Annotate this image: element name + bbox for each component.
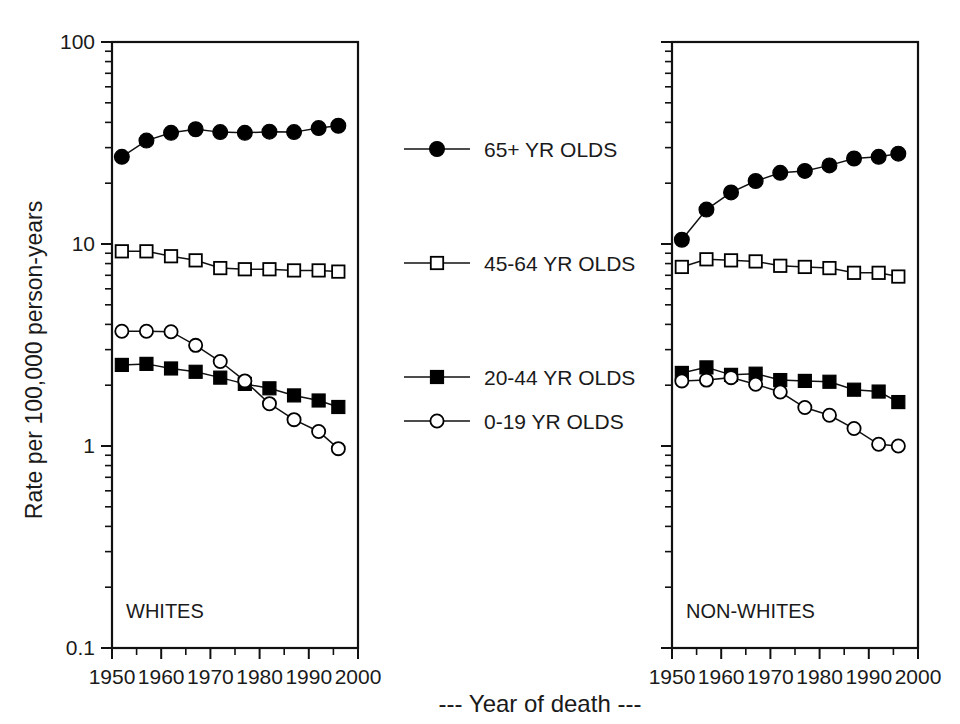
series-line [122,364,338,407]
panel-non-whites: 195019601970198019902000NON-WHITES [649,42,942,688]
panel-label: NON-WHITES [686,600,815,622]
data-point-filled-circle-marker [748,174,763,189]
data-point-open-circle-marker [115,325,128,338]
mortality-rate-chart: 1001010.1195019601970198019902000WHITES1… [0,0,960,724]
data-point-filled-circle-marker [773,165,788,180]
panel-whites: 1001010.1195019601970198019902000WHITES [60,30,381,688]
x-tick-label: 1970 [747,665,794,688]
data-point-open-circle-marker [892,439,905,452]
data-point-open-square-marker [214,262,226,274]
data-point-open-square-marker [774,260,786,272]
legend-label: 20-44 YR OLDS [484,366,635,389]
data-point-filled-square-marker [288,389,301,402]
legend-item-0-19-yr-olds: 0-19 YR OLDS [404,410,624,433]
data-point-filled-circle-marker [188,122,203,137]
legend-label: 0-19 YR OLDS [484,410,624,433]
data-point-filled-circle-marker [139,133,154,148]
x-tick-label: 1990 [845,665,892,688]
series-line [682,259,898,276]
x-tick-label: 1950 [649,665,696,688]
data-point-filled-circle-marker [724,185,739,200]
data-point-filled-circle-marker [797,164,812,179]
series-0-19-yr-olds [675,371,905,453]
data-point-filled-square-marker [892,396,905,409]
series-45-64-yr-olds [116,245,345,278]
chart-root: 1001010.1195019601970198019902000WHITES1… [21,30,941,717]
data-point-open-circle-marker [774,385,787,398]
data-point-filled-square-marker [312,394,325,407]
data-point-open-circle-marker [164,325,177,338]
data-point-filled-square-marker [214,371,227,384]
data-point-filled-circle-marker [164,125,179,140]
data-point-filled-circle-marker [237,125,252,140]
data-point-open-circle-marker [823,409,836,422]
series-65-yr-olds [114,118,345,164]
data-point-open-square-marker [332,265,344,277]
data-point-filled-circle-marker [114,149,129,164]
data-point-filled-square-marker [700,361,713,374]
legend: 65+ YR OLDS45-64 YR OLDS20-44 YR OLDS0-1… [404,138,635,433]
legend-item-65-yr-olds: 65+ YR OLDS [404,138,617,161]
data-point-open-circle-marker [675,374,688,387]
data-point-open-square-marker [848,267,860,279]
data-point-open-square-marker [239,263,251,275]
data-point-open-circle-marker [287,413,300,426]
data-point-filled-circle-marker [213,125,228,140]
data-point-open-circle-marker [798,401,811,414]
data-point-open-square-marker [749,255,761,267]
x-tick-label: 1980 [236,665,283,688]
legend-marker-filled-circle-marker [430,142,445,157]
data-point-filled-circle-marker [674,232,689,247]
panel-label: WHITES [126,600,204,622]
series-line [682,378,898,446]
data-point-open-square-marker [312,264,324,276]
y-axis-title: Rate per 100,000 person-years [21,201,47,519]
x-axis-caption: --- Year of death --- [439,690,642,717]
plot-frame [672,42,918,648]
data-point-filled-square-marker [263,382,276,395]
data-point-open-square-marker [700,253,712,265]
data-point-open-square-marker [725,254,737,266]
data-point-filled-square-marker [115,358,128,371]
data-point-open-circle-marker [140,325,153,338]
legend-marker-open-circle-marker [430,414,443,427]
data-point-open-square-marker [189,254,201,266]
data-point-filled-square-marker [848,383,861,396]
data-point-filled-circle-marker [262,124,277,139]
y-tick-label: 1 [83,434,95,457]
data-point-open-circle-marker [263,397,276,410]
data-point-open-square-marker [823,262,835,274]
data-point-open-circle-marker [312,425,325,438]
series-line [682,367,898,402]
legend-item-45-64-yr-olds: 45-64 YR OLDS [404,252,635,275]
data-point-open-square-marker [288,264,300,276]
y-tick-label: 10 [72,232,95,255]
data-point-filled-circle-marker [822,158,837,173]
data-point-filled-circle-marker [287,125,302,140]
data-point-open-circle-marker [724,371,737,384]
data-point-filled-square-marker [823,375,836,388]
data-point-open-circle-marker [214,355,227,368]
data-point-open-square-marker [872,267,884,279]
data-point-open-circle-marker [332,442,345,455]
x-tick-label: 2000 [895,665,942,688]
data-point-filled-circle-marker [847,151,862,166]
data-point-filled-circle-marker [699,202,714,217]
series-line [682,154,898,240]
data-point-open-square-marker [799,261,811,273]
x-tick-label: 1990 [285,665,332,688]
data-point-filled-square-marker [165,362,178,375]
series-65-yr-olds [674,146,905,247]
y-tick-label: 0.1 [66,636,95,659]
data-point-filled-circle-marker [311,121,326,136]
series-45-64-yr-olds [676,253,905,283]
series-20-44-yr-olds [115,357,344,413]
figure-container: 1001010.1195019601970198019902000WHITES1… [0,0,960,724]
data-point-filled-circle-marker [891,146,906,161]
data-point-open-circle-marker [700,373,713,386]
x-tick-label: 2000 [335,665,382,688]
data-point-filled-square-marker [798,374,811,387]
series-0-19-yr-olds [115,325,345,456]
legend-item-20-44-yr-olds: 20-44 YR OLDS [404,366,635,389]
x-tick-label: 1970 [187,665,234,688]
